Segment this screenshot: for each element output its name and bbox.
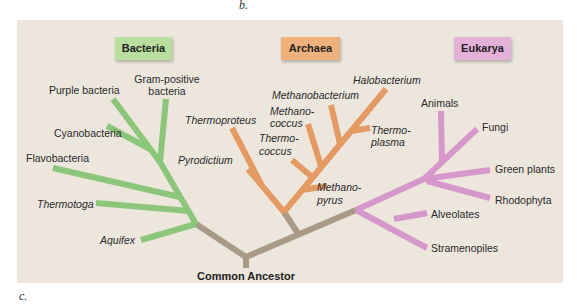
taxon-thermoplasma-line2: plasma bbox=[371, 136, 405, 148]
taxon-methanococcus-line2: coccus bbox=[270, 117, 303, 129]
taxon-rhodophyta: Rhodophyta bbox=[495, 194, 552, 206]
taxon-thermoproteus: Thermoproteus bbox=[185, 114, 256, 126]
archaea-domain-label: Archaea bbox=[281, 37, 340, 60]
taxon-green-plants: Green plants bbox=[495, 163, 555, 175]
bacteria-domain-label: Bacteria bbox=[115, 37, 172, 60]
taxon-halobacterium: Halobacterium bbox=[353, 74, 421, 86]
taxon-stramenopiles: Stramenopiles bbox=[431, 242, 498, 254]
taxon-thermoplasma-line1: Thermo- bbox=[371, 124, 411, 136]
taxon-gram-positive-line2: bacteria bbox=[134, 85, 200, 97]
taxon-methanopyrus-line2: pyrus bbox=[317, 194, 343, 206]
taxon-animals: Animals bbox=[421, 97, 458, 109]
common-ancestor-label: Common Ancestor bbox=[197, 270, 295, 282]
taxon-methanobacterium: Methanobacterium bbox=[272, 89, 359, 101]
eukarya-domain-label: Eukarya bbox=[454, 37, 511, 60]
taxon-pyrodictium: Pyrodictium bbox=[178, 154, 233, 166]
taxon-thermococcus-line1: Thermo- bbox=[259, 132, 299, 144]
bacteria-branches bbox=[53, 99, 196, 240]
taxon-flavobacteria: Flavobacteria bbox=[26, 152, 89, 164]
taxon-gram-positive-line1: Gram-positive bbox=[134, 73, 200, 85]
taxon-aquifex: Aquifex bbox=[100, 234, 135, 246]
taxon-methanopyrus-line1: Methano- bbox=[317, 181, 361, 193]
taxon-thermotoga: Thermotoga bbox=[37, 198, 94, 210]
taxon-cyanobacteria: Cyanobacteria bbox=[54, 127, 122, 139]
figure-letter-c: c. bbox=[19, 289, 27, 304]
taxon-fungi: Fungi bbox=[482, 121, 508, 133]
root-branches bbox=[196, 210, 356, 268]
taxon-thermococcus-line2: coccus bbox=[259, 145, 292, 157]
taxon-purple-bacteria: Purple bacteria bbox=[49, 84, 120, 96]
taxon-alveolates: Alveolates bbox=[431, 208, 479, 220]
taxon-methanococcus-line1: Methano- bbox=[270, 105, 314, 117]
